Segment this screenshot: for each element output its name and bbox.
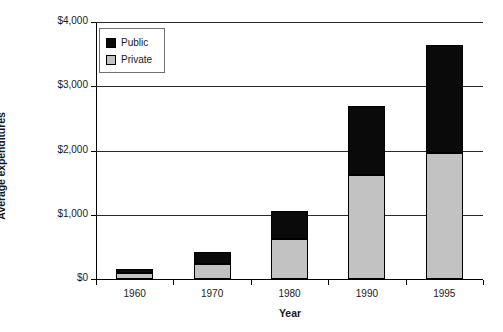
y-axis-tick [91,86,96,87]
x-axis-tick-label-1970: 1970 [182,288,242,299]
legend-label-private: Private [121,55,152,65]
legend-swatch-private-icon [106,55,116,65]
legend-label-public: Public [121,38,148,48]
x-axis-tick-label-1960: 1960 [105,288,165,299]
chart-container: Average expenditures $0$1,000$2,000$3,00… [0,0,503,332]
x-axis-tick [173,280,174,285]
x-axis-tick [251,280,252,285]
x-axis-title: Year [96,307,484,319]
legend-box: Public Private [99,28,165,73]
y-axis-tick [91,151,96,152]
legend-swatch-public-icon [106,38,116,48]
x-axis-tick [96,280,97,285]
y-axis-tick [91,215,96,216]
x-axis-tick-label-1980: 1980 [260,288,320,299]
legend-item-private: Private [106,51,164,68]
x-axis-tick-label-1990: 1990 [337,288,397,299]
x-axis-tick [406,280,407,285]
x-axis-tick [328,280,329,285]
legend-item-public: Public [106,34,164,51]
x-axis-layer: 19601970198019901995 [0,0,503,332]
x-axis-tick-label-1995: 1995 [414,288,474,299]
y-axis-tick [91,22,96,23]
x-axis-tick [483,280,484,285]
